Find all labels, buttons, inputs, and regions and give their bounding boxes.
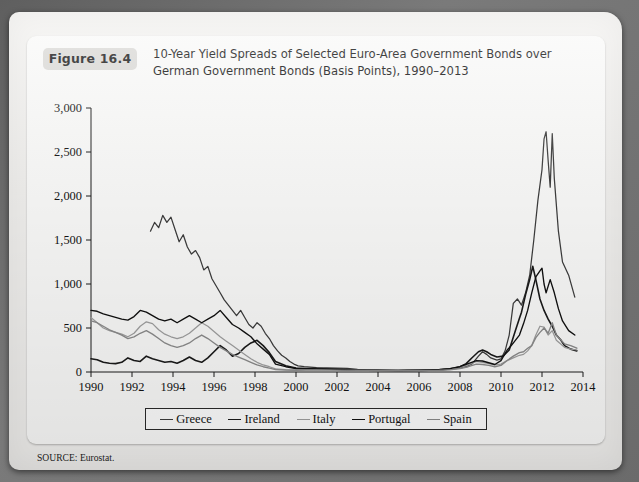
svg-text:2,000: 2,000 bbox=[54, 189, 82, 203]
svg-text:2008: 2008 bbox=[448, 380, 473, 394]
svg-text:0: 0 bbox=[76, 365, 82, 379]
svg-text:2012: 2012 bbox=[530, 380, 555, 394]
svg-text:2004: 2004 bbox=[366, 380, 391, 394]
svg-text:500: 500 bbox=[63, 321, 82, 335]
svg-text:1,500: 1,500 bbox=[54, 233, 82, 247]
svg-text:2002: 2002 bbox=[325, 380, 350, 394]
svg-text:3,000: 3,000 bbox=[54, 101, 82, 115]
legend-item-greece[interactable]: Greece bbox=[160, 412, 211, 427]
svg-text:1990: 1990 bbox=[79, 380, 104, 394]
line-chart: 05001,0001,5002,0002,5003,00019901992199… bbox=[37, 98, 597, 408]
chart-legend: GreeceIrelandItalyPortugalSpain bbox=[27, 408, 605, 436]
legend-swatch-icon bbox=[297, 419, 310, 420]
svg-text:2000: 2000 bbox=[284, 380, 309, 394]
svg-text:2006: 2006 bbox=[407, 380, 432, 394]
page-sheet: Figure 16.4 10-Year Yield Spreads of Sel… bbox=[9, 12, 622, 470]
legend-box: GreeceIrelandItalyPortugalSpain bbox=[145, 408, 487, 430]
legend-swatch-icon bbox=[427, 419, 440, 420]
svg-text:1998: 1998 bbox=[243, 380, 268, 394]
svg-text:1992: 1992 bbox=[120, 380, 145, 394]
figure-header: Figure 16.4 10-Year Yield Spreads of Sel… bbox=[27, 44, 605, 96]
legend-label: Greece bbox=[176, 412, 211, 427]
svg-text:2014: 2014 bbox=[571, 380, 596, 394]
legend-item-ireland[interactable]: Ireland bbox=[228, 412, 279, 427]
legend-label: Portugal bbox=[368, 412, 410, 427]
scanned-page: Figure 16.4 10-Year Yield Spreads of Sel… bbox=[0, 0, 639, 482]
legend-label: Ireland bbox=[244, 412, 279, 427]
figure-title: 10-Year Yield Spreads of Selected Euro-A… bbox=[153, 46, 588, 79]
legend-label: Italy bbox=[313, 412, 336, 427]
figure-panel: Figure 16.4 10-Year Yield Spreads of Sel… bbox=[27, 36, 605, 444]
svg-text:2010: 2010 bbox=[489, 380, 514, 394]
figure-number-badge: Figure 16.4 bbox=[43, 48, 137, 70]
legend-label: Spain bbox=[443, 412, 471, 427]
svg-text:2,500: 2,500 bbox=[54, 145, 82, 159]
legend-swatch-icon bbox=[228, 419, 241, 420]
legend-swatch-icon bbox=[352, 419, 365, 420]
legend-item-spain[interactable]: Spain bbox=[427, 412, 471, 427]
legend-item-portugal[interactable]: Portugal bbox=[352, 412, 410, 427]
legend-item-italy[interactable]: Italy bbox=[297, 412, 336, 427]
svg-text:1996: 1996 bbox=[202, 380, 227, 394]
legend-swatch-icon bbox=[160, 419, 173, 420]
chart-plot-area: 05001,0001,5002,0002,5003,00019901992199… bbox=[37, 98, 597, 408]
figure-source: SOURCE: Eurostat. bbox=[37, 452, 114, 463]
svg-text:1994: 1994 bbox=[161, 380, 186, 394]
svg-text:1,000: 1,000 bbox=[54, 277, 82, 291]
